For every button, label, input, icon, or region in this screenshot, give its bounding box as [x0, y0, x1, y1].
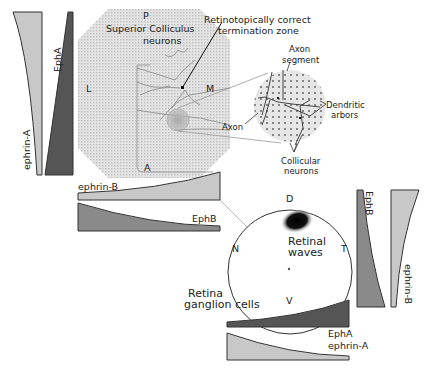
dendritic-arbors-label-line2: arbors — [331, 110, 359, 120]
zoom-inset: Axon segment Dendritic arbors Axon Colli… — [222, 44, 365, 176]
EphB-label-retina: EphB — [364, 191, 375, 216]
retina-right-gradients: EphB ephrin-B — [357, 190, 419, 307]
inset-neuron-dot-1 — [277, 97, 279, 99]
ganglion-label-line2: ganglion cells — [184, 298, 260, 311]
termination-zone-label-line1: Retinotopically correct — [204, 14, 311, 25]
axon-label: Axon — [222, 122, 243, 132]
retinal-waves-label-line2: waves — [288, 246, 323, 259]
ephrinB-label-retina: ephrin-B — [403, 264, 414, 304]
termination-zone-label-line2: termination zone — [218, 25, 299, 36]
dendritic-arbors-label-line1: Dendritic — [326, 100, 365, 110]
termination-zone — [167, 109, 189, 131]
collicular-neurons-label-line1: Collicular — [281, 156, 321, 166]
EphA-label-sc: EphA — [52, 47, 63, 72]
sc-lateral-label: L — [86, 83, 92, 94]
sc-anterior-label: A — [144, 162, 151, 173]
sc-title-line1: Superior Colliculus — [106, 23, 194, 34]
retina-nasal-label: N — [232, 243, 239, 254]
sc-bottom-gradients: ephrin-B EphB — [78, 172, 220, 231]
axon-segment-label-line2: segment — [282, 55, 320, 65]
retina-center-point — [288, 268, 290, 270]
sc-title-line2: neurons — [143, 35, 181, 46]
retina-dorsal-label: D — [286, 193, 293, 204]
EphB-label-sc: EphB — [192, 213, 217, 224]
retina-ventral-label: V — [286, 295, 293, 306]
collicular-neurons-label-line2: neurons — [284, 166, 319, 176]
sc-left-gradients: ephrin-A EphA — [13, 12, 73, 175]
ephrinA-label-sc: ephrin-A — [21, 129, 32, 170]
EphA-label-retina: EphA — [328, 328, 353, 339]
ephrinA-label-retina: ephrin-A — [328, 340, 369, 351]
axon-segment-label-line1: Axon — [289, 44, 310, 54]
inset-neuron-dot-2 — [299, 117, 301, 119]
EphA-gradient-sc — [45, 12, 73, 175]
retinotopic-map-diagram: ephrin-A EphA P Superior Colliculus neur… — [0, 0, 431, 373]
sc-medial-label: M — [206, 83, 214, 94]
ephrinB-label-sc: ephrin-B — [78, 181, 118, 192]
sc-posterior-label: P — [143, 10, 149, 21]
retina-temporal-label: T — [340, 243, 347, 254]
